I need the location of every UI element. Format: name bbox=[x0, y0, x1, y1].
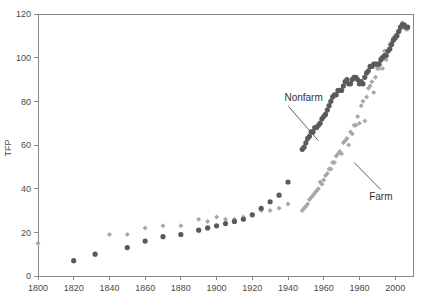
x-tick-label: 1840 bbox=[99, 283, 119, 293]
x-tick-label: 1960 bbox=[314, 283, 334, 293]
data-point-nonfarm bbox=[276, 193, 281, 198]
x-tick-label: 1940 bbox=[278, 283, 298, 293]
data-point-farm bbox=[371, 90, 376, 95]
data-point-farm bbox=[107, 232, 112, 237]
data-point-nonfarm bbox=[232, 219, 237, 224]
x-tick-label: 2000 bbox=[385, 283, 405, 293]
x-tick-label: 1860 bbox=[135, 283, 155, 293]
annotation-leader-nonfarm bbox=[288, 106, 318, 140]
y-tick-label: 20 bbox=[21, 228, 31, 238]
data-point-nonfarm bbox=[93, 252, 98, 257]
data-point-farm bbox=[373, 75, 378, 80]
y-tick-label: 100 bbox=[16, 53, 31, 63]
plot-frame bbox=[38, 14, 413, 276]
tfp-scatter-chart: 020406080100120 180018201840186018801900… bbox=[0, 0, 425, 301]
data-point-nonfarm bbox=[178, 232, 183, 237]
data-point-farm bbox=[355, 114, 360, 119]
x-axis-ticks: 1800182018401860188019001920194019601980… bbox=[28, 276, 405, 293]
data-point-farm bbox=[205, 219, 210, 224]
data-point-nonfarm bbox=[250, 212, 255, 217]
data-point-farm bbox=[380, 66, 385, 71]
y-axis-title: TFP bbox=[3, 140, 13, 157]
annotation-label-farm: Farm bbox=[369, 191, 392, 202]
data-point-farm bbox=[277, 206, 282, 211]
data-point-farm bbox=[196, 217, 201, 222]
data-point-farm bbox=[369, 79, 374, 84]
data-point-nonfarm bbox=[205, 225, 210, 230]
data-point-farm bbox=[286, 201, 291, 206]
data-point-farm bbox=[268, 208, 273, 213]
data-point-nonfarm bbox=[160, 234, 165, 239]
data-point-farm bbox=[361, 99, 366, 104]
x-tick-label: 1820 bbox=[64, 283, 84, 293]
data-point-farm bbox=[362, 118, 367, 123]
data-point-farm bbox=[346, 143, 351, 148]
data-point-nonfarm bbox=[223, 221, 228, 226]
series-nonfarm-points bbox=[71, 22, 410, 263]
x-tick-label: 1880 bbox=[171, 283, 191, 293]
data-point-nonfarm bbox=[268, 199, 273, 204]
data-point-nonfarm bbox=[360, 81, 365, 86]
data-point-farm bbox=[143, 225, 148, 230]
data-point-farm bbox=[178, 223, 183, 228]
plot-border bbox=[38, 14, 413, 276]
data-point-nonfarm bbox=[241, 217, 246, 222]
data-point-farm bbox=[214, 215, 219, 220]
data-point-farm bbox=[223, 217, 228, 222]
data-point-nonfarm bbox=[405, 25, 410, 30]
data-point-farm bbox=[359, 103, 364, 108]
data-point-nonfarm bbox=[214, 223, 219, 228]
data-point-nonfarm bbox=[125, 245, 130, 250]
y-tick-label: 80 bbox=[21, 97, 31, 107]
x-tick-label: 1920 bbox=[242, 283, 262, 293]
y-axis-ticks: 020406080100120 bbox=[16, 9, 38, 281]
x-tick-label: 1980 bbox=[349, 283, 369, 293]
data-point-nonfarm bbox=[259, 206, 264, 211]
series-annotations: NonfarmFarm bbox=[284, 92, 392, 201]
data-point-nonfarm bbox=[143, 238, 148, 243]
annotation-label-nonfarm: Nonfarm bbox=[284, 92, 322, 103]
y-tick-label: 40 bbox=[21, 184, 31, 194]
data-point-farm bbox=[364, 94, 369, 99]
chart-canvas: 020406080100120 180018201840186018801900… bbox=[0, 0, 425, 301]
x-tick-label: 1800 bbox=[28, 283, 48, 293]
data-point-farm bbox=[161, 223, 166, 228]
data-point-farm bbox=[36, 241, 41, 246]
data-point-nonfarm bbox=[71, 258, 76, 263]
data-point-nonfarm bbox=[285, 180, 290, 185]
y-tick-label: 120 bbox=[16, 9, 31, 19]
data-point-farm bbox=[125, 232, 130, 237]
data-point-nonfarm bbox=[196, 228, 201, 233]
series-farm-points bbox=[36, 20, 411, 246]
y-tick-label: 0 bbox=[26, 271, 31, 281]
x-tick-label: 1900 bbox=[207, 283, 227, 293]
y-tick-label: 60 bbox=[21, 140, 31, 150]
annotation-leader-farm bbox=[354, 162, 381, 189]
